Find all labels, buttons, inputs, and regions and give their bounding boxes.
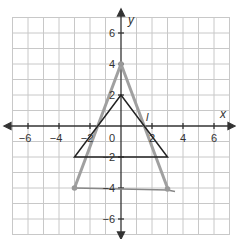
x-tick-label: 2 [149, 132, 155, 144]
y-tick-label: −2 [102, 151, 115, 163]
y-tick-label: 2 [109, 89, 115, 101]
annotation-l: l [146, 111, 149, 123]
x-tick-label: 4 [180, 132, 186, 144]
x-axis-left-arrow-icon [4, 123, 11, 130]
x-tick-label: −4 [50, 132, 63, 144]
vertex-marker [118, 61, 124, 67]
y-axis-label: y [127, 13, 135, 27]
coordinate-plane: y x l 0 −6 −4 −2 2 4 6 6 4 2 −2 −4 −6 [0, 0, 236, 239]
y-axis-down-arrow-icon [118, 232, 125, 239]
vertex-marker [165, 186, 171, 192]
y-tick-label: 6 [109, 27, 115, 39]
x-tick-label: 6 [211, 132, 217, 144]
y-axis-up-arrow-icon [118, 9, 125, 16]
x-axis-right-arrow-icon [228, 123, 235, 130]
x-tick-label: −2 [81, 132, 94, 144]
x-tick-label: −6 [19, 132, 32, 144]
origin-label: 0 [109, 132, 115, 144]
y-tick-label: 4 [109, 58, 115, 70]
axes [4, 9, 235, 239]
x-axis-label: x [219, 107, 227, 121]
vertex-marker [72, 185, 78, 191]
y-tick-label: −6 [102, 213, 115, 225]
y-tick-label: −4 [102, 182, 115, 194]
